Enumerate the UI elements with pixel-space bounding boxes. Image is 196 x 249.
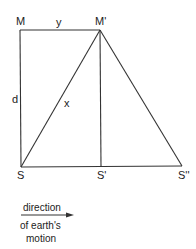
- line-Mprime-Sdoubleprime: [100, 30, 182, 166]
- line-M-S: [20, 30, 21, 167]
- label-M-prime: M': [95, 15, 106, 27]
- label-M: M: [16, 15, 25, 27]
- line-Mprime-S: [21, 30, 100, 167]
- label-S: S: [17, 169, 24, 181]
- direction-arrow-head: [66, 213, 74, 218]
- label-y: y: [56, 16, 62, 28]
- caption-line3: motion: [26, 233, 56, 244]
- caption-line2: of earth's: [20, 220, 61, 231]
- label-S-double-prime: S'': [178, 169, 190, 181]
- caption-line1: direction: [23, 202, 61, 213]
- label-d: d: [12, 93, 18, 105]
- aberration-diagram: M y M' d x S S' S'' direction of earth's…: [0, 0, 196, 249]
- line-Mprime-Sprime: [100, 30, 101, 167]
- label-S-prime: S': [97, 169, 106, 181]
- label-x: x: [64, 97, 70, 109]
